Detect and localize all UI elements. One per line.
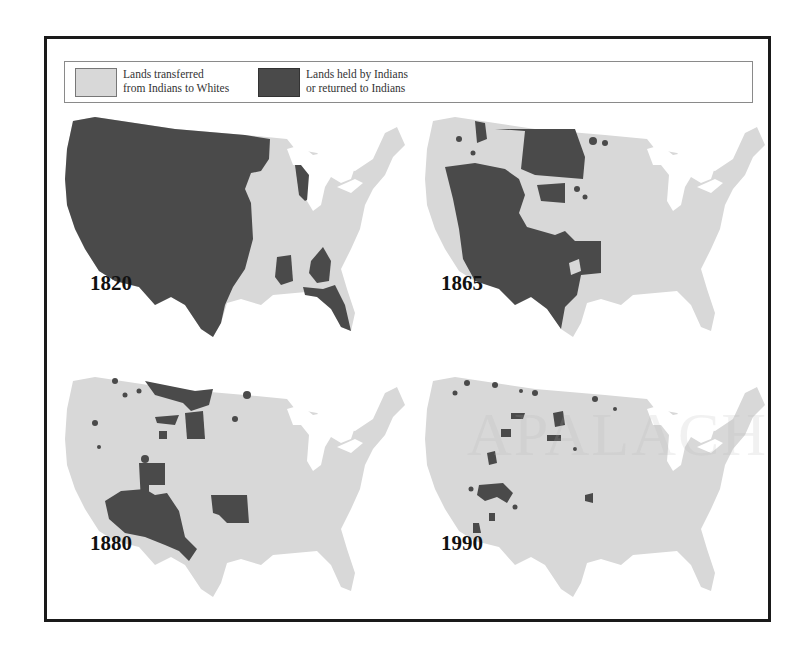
map-1990 (415, 369, 765, 604)
legend-swatch-transferred (75, 68, 117, 97)
map-1880 (55, 369, 405, 604)
legend-label-held: Lands held by Indians or returned to Ind… (306, 67, 408, 95)
legend-label-line: Lands held by Indians (306, 67, 408, 81)
year-label-1865: 1865 (441, 271, 483, 296)
us-map-1990 (415, 369, 765, 604)
year-label-1880: 1880 (90, 531, 132, 556)
year-label-1990: 1990 (441, 531, 483, 556)
legend-swatch-held (258, 68, 300, 97)
legend-label-line: from Indians to Whites (123, 81, 229, 95)
us-map-1880 (55, 369, 405, 604)
us-map-1820 (55, 109, 405, 344)
map-1865 (415, 109, 765, 344)
us-map-1865 (415, 109, 765, 344)
legend-label-line: or returned to Indians (306, 81, 408, 95)
legend-label-transferred: Lands transferred from Indians to Whites (123, 67, 229, 95)
legend: Lands transferred from Indians to Whites… (64, 61, 753, 103)
year-label-1820: 1820 (90, 271, 132, 296)
figure-frame: Lands transferred from Indians to Whites… (44, 36, 771, 622)
legend-label-line: Lands transferred (123, 67, 229, 81)
map-1820 (55, 109, 405, 344)
